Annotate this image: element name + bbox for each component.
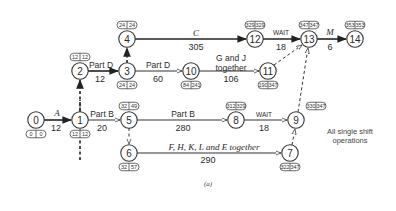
activity-partD-60-label: Part D xyxy=(146,60,170,70)
node-11-time-tag: 190347 xyxy=(258,81,278,89)
activity-wait-12-13-label: WAIT xyxy=(273,29,289,36)
node-number: 11 xyxy=(263,66,274,77)
node-12: 12 xyxy=(247,31,263,47)
node-4: 4 xyxy=(119,31,135,47)
late-time: 24 xyxy=(129,22,135,28)
node-number: 7 xyxy=(287,148,293,159)
node-number: 12 xyxy=(249,34,261,45)
early-time: 24 xyxy=(119,82,125,88)
early-time: 330 xyxy=(306,103,315,109)
late-time: 353 xyxy=(355,22,364,28)
node-6-time-tag: 3257 xyxy=(119,163,139,171)
activity-partD-12-label: Part D xyxy=(89,60,113,70)
node-2-time-tag: 1212 xyxy=(70,53,90,61)
node-0: 0 xyxy=(28,112,44,128)
node-13: 13 xyxy=(301,31,317,47)
early-time: 84 xyxy=(183,82,189,88)
activity-A-duration: 12 xyxy=(51,123,61,133)
early-time: 322 xyxy=(280,164,289,170)
early-time: 12 xyxy=(72,54,78,60)
early-time: 0 xyxy=(29,131,32,137)
early-time: 32 xyxy=(121,103,127,109)
node-10-time-tag: 84241 xyxy=(181,81,201,89)
activity-partB-280-duration: 280 xyxy=(175,123,190,133)
activity-partB-20-label: Part B xyxy=(90,109,114,119)
activity-GJ-duration: 106 xyxy=(223,74,238,84)
node-4-time-tag: 2424 xyxy=(117,21,137,29)
node-number: 8 xyxy=(233,115,239,126)
node-8: 8 xyxy=(228,112,244,128)
activity-wait-12-13-duration: 18 xyxy=(276,42,286,52)
late-time: 49 xyxy=(131,103,137,109)
node-9-time-tag: 330347 xyxy=(306,102,326,110)
late-time: 57 xyxy=(131,164,137,170)
activity-partD-12-duration: 12 xyxy=(95,74,105,84)
node-1: 1 xyxy=(72,112,88,128)
late-time: 0 xyxy=(39,131,42,137)
node-7-time-tag: 322347 xyxy=(280,163,300,171)
node-number: 9 xyxy=(293,115,299,126)
activity-wait-8-9-label: WAIT xyxy=(256,111,272,118)
node-7: 7 xyxy=(282,145,298,161)
activity-A-label: A xyxy=(53,108,60,118)
network-diagram: A 12 Part D 12 C 305 WAIT 18 M 6 Part D … xyxy=(0,0,396,211)
node-number: 2 xyxy=(77,66,83,77)
node-14: 14 xyxy=(347,31,363,47)
node-0-time-tag: 00 xyxy=(26,130,46,138)
early-time: 32 xyxy=(121,164,127,170)
late-time: 241 xyxy=(191,82,200,88)
node-number: 5 xyxy=(126,115,132,126)
activity-FHKLE-duration: 290 xyxy=(200,155,215,165)
node-2: 2 xyxy=(72,63,88,79)
node-3: 3 xyxy=(119,63,135,79)
node-number: 13 xyxy=(303,34,315,45)
node-13-time-tag: 347347 xyxy=(299,21,319,29)
node-5-time-tag: 3249 xyxy=(119,102,139,110)
late-time: 329 xyxy=(255,22,264,28)
node-9: 9 xyxy=(288,112,304,128)
activity-M-duration: 6 xyxy=(327,42,332,52)
node-number: 3 xyxy=(124,66,130,77)
node-number: 0 xyxy=(33,115,39,126)
late-time: 24 xyxy=(129,82,135,88)
activity-partD-60-duration: 60 xyxy=(153,74,163,84)
late-time: 347 xyxy=(316,103,325,109)
activity-GJ-label-line2: together xyxy=(215,63,246,73)
late-time: 347 xyxy=(268,82,277,88)
node-number: 6 xyxy=(126,148,132,159)
activity-GJ-label-line1: G and J xyxy=(216,53,246,63)
early-time: 190 xyxy=(258,82,267,88)
activity-C-duration: 305 xyxy=(188,42,203,52)
early-time: 347 xyxy=(299,22,308,28)
late-time: 347 xyxy=(290,164,299,170)
node-14-time-tag: 353353 xyxy=(345,21,365,29)
node-6: 6 xyxy=(121,145,137,161)
late-time: 347 xyxy=(309,22,318,28)
node-10: 10 xyxy=(183,63,199,79)
activity-partB-20-duration: 20 xyxy=(97,123,107,133)
note-line-2: operations xyxy=(332,136,367,145)
figure-caption: (a) xyxy=(204,180,213,188)
node-3-time-tag: 2424 xyxy=(117,81,137,89)
node-number: 14 xyxy=(349,34,361,45)
node-number: 4 xyxy=(124,34,130,45)
activity-FHKLE-label: F, H, K, L and E together xyxy=(168,142,260,152)
late-time: 12 xyxy=(82,131,88,137)
dummy-7-9-arrow xyxy=(292,129,295,145)
early-time: 24 xyxy=(119,22,125,28)
node-number: 10 xyxy=(185,66,197,77)
node-11: 11 xyxy=(260,63,276,79)
early-time: 353 xyxy=(345,22,354,28)
late-time: 329 xyxy=(236,103,245,109)
early-time: 329 xyxy=(245,22,254,28)
activity-wait-8-9-duration: 18 xyxy=(259,123,269,133)
activity-C-label: C xyxy=(193,28,200,38)
late-time: 12 xyxy=(82,54,88,60)
early-time: 312 xyxy=(226,103,235,109)
activity-partB-280-label: Part B xyxy=(171,109,195,119)
node-8-time-tag: 312329 xyxy=(226,102,246,110)
node-5: 5 xyxy=(121,112,137,128)
note-line-1: All single shift xyxy=(327,127,374,136)
early-time: 12 xyxy=(72,131,78,137)
activity-M-label: M xyxy=(325,27,334,37)
